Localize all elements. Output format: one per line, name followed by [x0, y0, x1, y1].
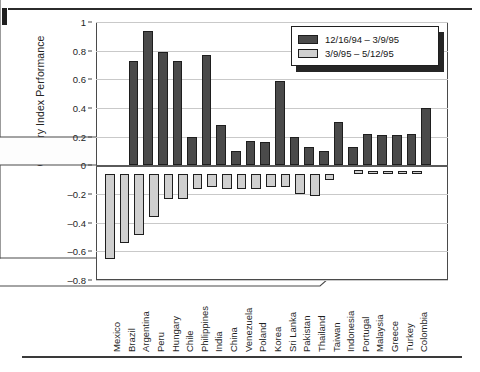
legend-swatch-period2: [298, 49, 318, 58]
category-label-greece: Greece: [389, 321, 400, 352]
bar-face: [383, 171, 393, 174]
bar-face: [251, 174, 261, 188]
category-label-china: China: [228, 327, 239, 352]
bar-face: [187, 137, 197, 166]
bar-face: [216, 125, 226, 165]
bar-face: [193, 174, 203, 188]
category-label-philippines: Philippines: [199, 306, 210, 352]
bar-face: [105, 174, 115, 259]
bar-period1-peru: [158, 52, 168, 165]
bar-period2-chile: [178, 174, 188, 198]
bar-period2-malaysia: [368, 171, 378, 174]
bar-face: [407, 134, 417, 166]
bar-face: [319, 151, 329, 165]
bar-period1-philippines: [202, 55, 212, 165]
bar-face: [173, 61, 183, 166]
bar-face: [421, 108, 431, 165]
y-tick-mark: [88, 79, 92, 80]
y-tick-label: 0.6: [73, 74, 86, 85]
category-label-argentina: Argentina: [140, 311, 151, 352]
bar-face: [392, 135, 402, 165]
bar-period2-taiwan: [325, 174, 335, 180]
figure-top-rule: [8, 8, 472, 10]
bar-period1-colombia: [421, 108, 431, 165]
bar-face: [129, 61, 139, 166]
category-label-chile: Chile: [184, 330, 195, 352]
bar-face: [363, 134, 373, 166]
chart-legend: 12/16/94 – 3/9/95 3/9/95 – 5/12/95: [291, 26, 439, 66]
bar-face: [222, 174, 232, 188]
bar-period1-chile: [187, 137, 197, 166]
bar-period2-greece: [383, 171, 393, 174]
bar-face: [158, 52, 168, 165]
bar-period1-india: [216, 125, 226, 165]
bar-face: [368, 171, 378, 174]
category-label-korea: Korea: [272, 327, 283, 352]
bar-period2-korea: [266, 174, 276, 187]
category-label-colombia: Colombia: [418, 312, 429, 352]
bar-period2-china: [222, 174, 232, 188]
legend-label-period1: 12/16/94 – 3/9/95: [325, 34, 399, 45]
y-tick-label: 0: [81, 160, 86, 171]
bar-face: [120, 174, 130, 243]
bar-period2-pakistan: [295, 174, 305, 194]
category-label-brazil: Brazil: [126, 328, 137, 352]
bar-period1-malaysia: [377, 135, 387, 165]
y-tick-mark: [88, 194, 92, 195]
bar-face: [231, 151, 241, 165]
category-labels: MexicoBrazilArgentinaPeruHungaryChilePhi…: [0, 282, 480, 358]
bar-face: [149, 174, 159, 217]
bar-period1-china: [231, 151, 241, 165]
bar-face: [143, 31, 153, 166]
category-label-peru: Peru: [155, 332, 166, 352]
bar-face: [377, 135, 387, 165]
bar-face: [325, 174, 335, 180]
legend-label-period2: 3/9/95 – 5/12/95: [325, 48, 394, 59]
gridline: [96, 280, 448, 281]
y-tick-label: 0.2: [73, 131, 86, 142]
bar-face: [290, 137, 300, 166]
bar-face: [275, 81, 285, 166]
bar-period1-greece: [392, 135, 402, 165]
bar-period2-india: [207, 174, 217, 187]
bar-period2-venezuela: [237, 174, 247, 188]
y-tick-mark: [88, 136, 92, 137]
bar-period2-philippines: [193, 174, 203, 188]
legend-entry-period2: 3/9/95 – 5/12/95: [298, 48, 432, 59]
bar-face: [178, 174, 188, 198]
bar-period1-argentina: [143, 31, 153, 166]
bar-period1-sri-lanka: [290, 137, 300, 166]
bar-face: [334, 122, 344, 165]
y-tick-mark: [88, 50, 92, 51]
y-tick-label: –0.6: [68, 246, 87, 257]
y-tick-mark: [88, 251, 92, 252]
bar-face: [348, 147, 358, 166]
y-tick-label: 1: [81, 17, 86, 28]
legend-swatch-period1: [298, 35, 318, 44]
bar-face: [304, 147, 314, 166]
bar-period2-hungary: [164, 174, 174, 198]
y-tick-mark: [88, 108, 92, 109]
bar-period1-korea: [275, 81, 285, 166]
bar-period1-portugal: [363, 134, 373, 166]
category-label-sri-lanka: Sri Lanka: [287, 312, 298, 352]
category-label-mexico: Mexico: [111, 322, 122, 352]
bar-period2-brazil: [120, 174, 130, 243]
bar-period1-indonesia: [348, 147, 358, 166]
bar-period2-argentina: [134, 174, 144, 234]
category-label-poland: Poland: [257, 322, 268, 352]
bar-period1-thailand: [319, 151, 329, 165]
y-tick-mark: [88, 165, 92, 166]
bar-period2-mexico: [105, 174, 115, 259]
category-label-hungary: Hungary: [170, 316, 181, 352]
bar-face: [202, 55, 212, 165]
bar-period2-sri-lanka: [281, 174, 291, 187]
bar-period1-venezuela: [246, 141, 256, 165]
category-label-thailand: Thailand: [316, 316, 327, 352]
bar-period1-pakistan: [304, 147, 314, 166]
bar-period1-turkey: [407, 134, 417, 166]
bar-face: [354, 170, 364, 174]
category-label-taiwan: Taiwan: [331, 322, 342, 352]
bar-face: [134, 174, 144, 234]
y-tick-mark: [88, 22, 92, 23]
